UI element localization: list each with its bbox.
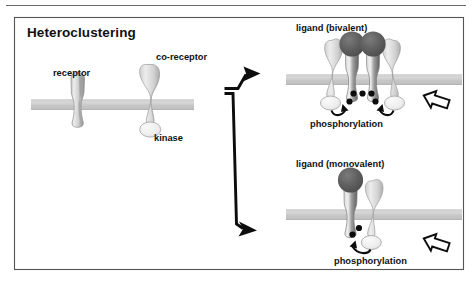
membrane-left	[31, 99, 194, 110]
kinase-bivalent-left	[321, 96, 341, 110]
label-ligand-monovalent: ligand (monovalent)	[296, 160, 384, 169]
label-ligand-bivalent: ligand (bivalent)	[296, 24, 367, 33]
kinase-bivalent-right	[385, 96, 405, 110]
ligand-circle-right	[360, 31, 385, 56]
label-coreceptor: co-receptor	[156, 53, 207, 62]
label-phosphorylation-monovalent: phosphorylation	[334, 257, 407, 266]
label-phosphorylation-bivalent: phosphorylation	[310, 120, 383, 129]
page-title: Heteroclustering	[27, 26, 136, 40]
kinase-monovalent	[361, 236, 381, 250]
heteroclustering-diagram	[0, 0, 473, 284]
ligand-circle-mono	[338, 167, 363, 192]
label-receptor: receptor	[53, 69, 90, 78]
label-kinase: kinase	[154, 134, 183, 143]
figure-root: Heteroclustering receptor co-receptor ki…	[0, 0, 473, 284]
